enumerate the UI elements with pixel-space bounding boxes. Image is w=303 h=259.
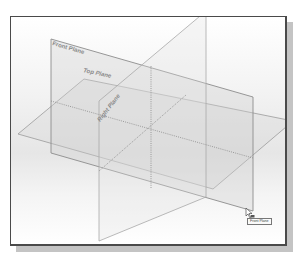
cursor-tooltip: Front Plane [247,218,272,225]
right-plane[interactable] [99,17,206,241]
datum-planes-scene: Front Plane Top Plane Right Plane [11,17,285,244]
